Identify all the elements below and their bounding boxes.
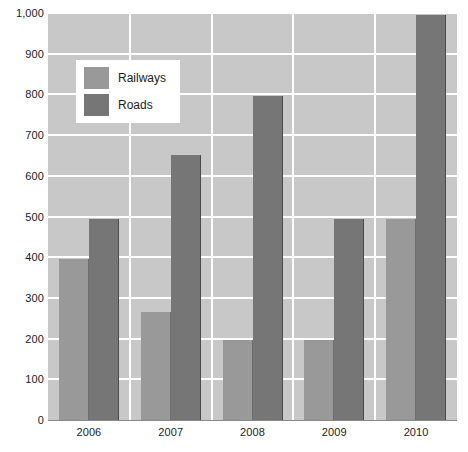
y-tick-label: 0 [0,415,44,426]
vertical-gridline [374,13,376,420]
y-tick-label: 200 [0,334,44,345]
y-tick-label: 600 [0,171,44,182]
y-tick-label: 500 [0,212,44,223]
y-tick-label: 100 [0,374,44,385]
x-tick-label: 2008 [240,426,265,439]
bar-chart: 01002003004005006007008009001,000 Railwa… [0,0,468,452]
y-axis: 01002003004005006007008009001,000 [0,0,44,452]
y-tick-label: 300 [0,293,44,304]
x-tick-label: 2010 [404,426,429,439]
vertical-gridline [211,13,213,420]
bar-railways-2010 [386,219,416,420]
x-axis-line [48,420,457,421]
x-tick-label: 2009 [322,426,347,439]
gridline [48,13,457,14]
bar-roads-2009 [334,219,364,420]
bar-roads-2008 [253,96,283,420]
bar-roads-2010 [416,15,446,420]
legend-label: Railways [118,72,166,84]
chart-title [0,0,468,4]
bar-railways-2008 [223,340,253,420]
legend-item-railways[interactable]: Railways [84,67,166,89]
x-axis: 20062007200820092010 [48,426,457,446]
legend-label: Roads [118,99,153,111]
y-tick-label: 900 [0,49,44,60]
y-tick-label: 800 [0,89,44,100]
x-tick-label: 2007 [158,426,183,439]
bar-railways-2007 [141,312,171,420]
x-tick-label: 2006 [76,426,101,439]
bar-roads-2007 [171,155,201,420]
y-tick-label: 1,000 [0,8,44,19]
y-tick-label: 700 [0,130,44,141]
legend-item-roads[interactable]: Roads [84,94,166,116]
plot-area: RailwaysRoads [48,13,457,420]
legend-swatch-roads [84,94,109,116]
vertical-gridline [292,13,294,420]
gridline [48,53,457,55]
bar-roads-2006 [89,219,119,420]
bar-railways-2009 [304,340,334,420]
legend-swatch-railways [84,67,109,89]
bar-railways-2006 [59,259,89,420]
y-tick-label: 400 [0,252,44,263]
legend: RailwaysRoads [76,60,180,123]
